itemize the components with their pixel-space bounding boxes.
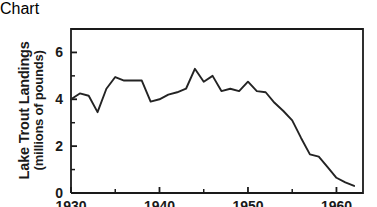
y-axis-tick-labels: 0246 [55,44,63,201]
x-tick-label: 1930 [55,198,86,207]
x-tick-label: 1960 [321,198,352,207]
x-tick-label: 1940 [144,198,175,207]
x-axis-tick-labels: 1930194019501960 [55,198,352,207]
chart-figure: Lake Trout Landings (millions of pounds)… [0,18,377,207]
data-series-line [71,69,354,186]
x-tick-label: 1950 [232,198,263,207]
plot-area: 0246 1930194019501960 [0,18,377,207]
plot-frame [71,29,363,193]
y-tick-label: 2 [55,138,63,154]
y-tick-label: 4 [55,91,63,107]
y-tick-label: 6 [55,44,63,60]
